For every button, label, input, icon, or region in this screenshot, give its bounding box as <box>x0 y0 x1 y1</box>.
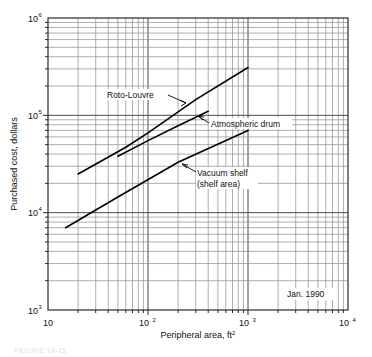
date-stamp: Jan. 1990 <box>287 289 325 299</box>
series-label-roto-louvre: Roto-Louvre <box>107 90 154 100</box>
svg-text:10: 10 <box>239 318 249 328</box>
figure-caption-area: FIGURE 14-11 <box>14 346 67 355</box>
svg-text:10: 10 <box>139 318 149 328</box>
series-label-vacuum-shelf: Vacuum shelf <box>197 168 249 178</box>
chart-background <box>0 0 372 357</box>
svg-text:10: 10 <box>43 318 53 328</box>
figure-container: 103104105106 10102103104 Peripheral area… <box>0 0 372 357</box>
svg-text:10: 10 <box>339 318 349 328</box>
figure-caption: FIGURE 14-11 <box>14 346 67 355</box>
svg-text:10: 10 <box>28 111 38 121</box>
x-axis-title: Peripheral area, ft2 <box>161 330 237 340</box>
svg-text:10: 10 <box>28 306 38 316</box>
series-label-vacuum-shelf-area: (shelf area) <box>197 179 240 189</box>
log-log-chart: 103104105106 10102103104 Peripheral area… <box>0 0 372 357</box>
x-tick-label-0: 10 <box>43 318 53 328</box>
svg-text:10: 10 <box>28 14 38 24</box>
series-label-atmospheric-drum: Atmospheric drum <box>211 119 280 129</box>
y-axis-title: Purchased cost, dollars <box>9 117 19 211</box>
svg-text:10: 10 <box>28 208 38 218</box>
